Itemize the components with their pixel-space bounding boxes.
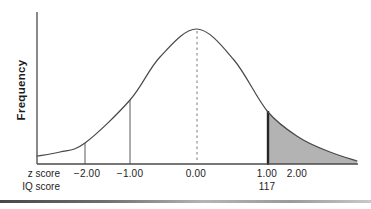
z-score-tick-label: 0.00	[176, 168, 216, 179]
normal-distribution-figure: Frequency z score IQ score −2.00−1.000.0…	[0, 0, 371, 209]
x-axis-row-label-iq: IQ score	[6, 181, 60, 192]
z-score-tick-label: −2.00	[67, 168, 107, 179]
y-axis-label: Frequency	[15, 60, 27, 121]
figure-bottom-rule	[0, 200, 371, 203]
z-score-tick-label: −1.00	[110, 168, 150, 179]
x-axis-row-label-z: z score	[6, 168, 60, 179]
iq-score-tick-label: 117	[247, 181, 287, 192]
z-score-tick-label: 2.00	[277, 168, 317, 179]
